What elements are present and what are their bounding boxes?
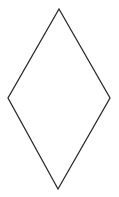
- diamond-shape: [8, 9, 110, 189]
- diamond-diagram: [0, 0, 119, 197]
- diagram-canvas: [0, 0, 119, 197]
